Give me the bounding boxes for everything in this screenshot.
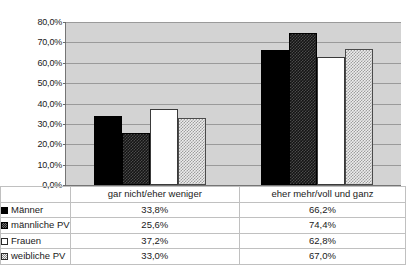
y-axis-tick-label-5: 30,0%: [4, 119, 62, 128]
value-cell-0-1: 66,2%: [240, 202, 406, 218]
legend-item-2: Frauen: [1, 233, 71, 249]
legend-label-3: weibliche PV: [11, 250, 65, 261]
table-row-categories: gar nicht/eher weniger eher mehr/voll un…: [1, 187, 406, 203]
value-cell-1-1: 74,4%: [240, 218, 406, 234]
y-axis-tick-2: [63, 63, 66, 64]
bar-2-0: [150, 109, 178, 185]
value-cell-2-1: 62,8%: [240, 233, 406, 249]
bar-1-1: [289, 33, 317, 185]
gridline-0: [66, 22, 401, 23]
legend-swatch-icon-3: [1, 253, 8, 260]
legend-swatch-icon-2: [1, 238, 8, 245]
y-axis: 80,0%70,0%60,0%50,0%40,0%30,0%20,0%10,0%…: [0, 0, 62, 196]
legend-item-1: männliche PV: [1, 218, 71, 234]
legend-swatch-icon-0: [1, 207, 8, 214]
y-axis-tick-6: [63, 144, 66, 145]
chart-data-table: gar nicht/eher weniger eher mehr/voll un…: [0, 186, 406, 265]
legend-header-cell: [1, 187, 71, 203]
bar-3-0: [178, 118, 206, 185]
y-axis-tick-3: [63, 83, 66, 84]
y-axis-tick-label-2: 60,0%: [4, 58, 62, 67]
y-axis-tick-4: [63, 104, 66, 105]
table-row: weibliche PV 33,0% 67,0%: [1, 249, 406, 265]
y-axis-tick-7: [63, 165, 66, 166]
value-cell-3-1: 67,0%: [240, 249, 406, 265]
value-cell-3-0: 33,0%: [70, 249, 239, 265]
legend-label-1: männliche PV: [11, 219, 70, 230]
table-row: Frauen 37,2% 62,8%: [1, 233, 406, 249]
table-row: Männer 33,8% 66,2%: [1, 202, 406, 218]
y-axis-tick-label-3: 50,0%: [4, 79, 62, 88]
bar-1-0: [122, 133, 150, 185]
category-label-0: gar nicht/eher weniger: [108, 188, 202, 199]
table-row: männliche PV 25,6% 74,4%: [1, 218, 406, 234]
legend-label-2: Frauen: [11, 235, 41, 246]
y-axis-tick-label-7: 10,0%: [4, 160, 62, 169]
y-axis-tick-label-4: 40,0%: [4, 99, 62, 108]
category-label-1: eher mehr/voll und ganz: [272, 188, 374, 199]
y-axis-tick-5: [63, 124, 66, 125]
legend-item-3: weibliche PV: [1, 249, 71, 265]
bar-chart: 80,0%70,0%60,0%50,0%40,0%30,0%20,0%10,0%…: [0, 0, 407, 196]
gridline-1: [66, 42, 401, 43]
value-cell-1-0: 25,6%: [70, 218, 239, 234]
bar-0-0: [94, 116, 122, 185]
y-axis-tick-1: [63, 42, 66, 43]
legend-swatch-icon-1: [1, 222, 8, 229]
value-cell-2-0: 37,2%: [70, 233, 239, 249]
bar-0-1: [261, 50, 289, 185]
legend-label-0: Männer: [11, 204, 43, 215]
plot-area: [65, 22, 401, 186]
y-axis-tick-label-0: 80,0%: [4, 18, 62, 27]
bar-2-1: [317, 57, 345, 185]
y-axis-tick-label-6: 20,0%: [4, 140, 62, 149]
y-axis-tick-label-1: 70,0%: [4, 38, 62, 47]
y-axis-tick-0: [63, 22, 66, 23]
bar-3-1: [345, 49, 373, 186]
legend-item-0: Männer: [1, 202, 71, 218]
value-cell-0-0: 33,8%: [70, 202, 239, 218]
